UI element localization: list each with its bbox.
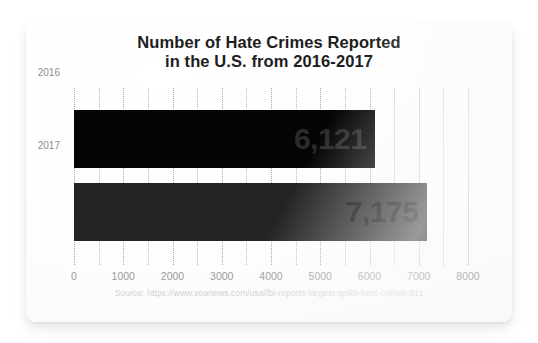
bar-2016: 6,121 [74, 110, 375, 168]
bar-2017: 7,175 [74, 183, 427, 241]
source-note: Source: https://www.voanews.com/usa/fbi-… [26, 288, 512, 298]
chart-card: Number of Hate Crimes Reported in the U.… [26, 22, 512, 322]
bar-chart: 2016 2017 6,121 7,175 010002000300040005… [26, 22, 512, 322]
gridline-7500 [443, 88, 445, 265]
category-label-2016: 2016 [26, 67, 60, 78]
category-label-2017: 2017 [26, 140, 60, 151]
bar-value-label-2017: 7,175 [346, 195, 419, 229]
gridline-8000 [468, 88, 470, 265]
bar-value-label-2016: 6,121 [294, 122, 367, 156]
x-tick-8000: 8000 [438, 270, 498, 282]
plot-area: 6,121 7,175 0100020003000400050006000700… [74, 88, 468, 265]
